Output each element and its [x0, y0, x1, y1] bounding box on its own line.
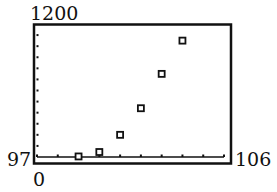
data-point: [76, 153, 82, 159]
scatter-plot: [0, 0, 277, 192]
data-point: [179, 38, 185, 44]
data-point: [117, 132, 123, 138]
y-axis-ticks: [37, 34, 39, 147]
data-points: [76, 38, 186, 160]
plot-frame: [34, 25, 231, 164]
data-point: [159, 71, 165, 77]
data-point: [96, 149, 102, 155]
x-axis: [36, 155, 225, 158]
data-point: [138, 105, 144, 111]
